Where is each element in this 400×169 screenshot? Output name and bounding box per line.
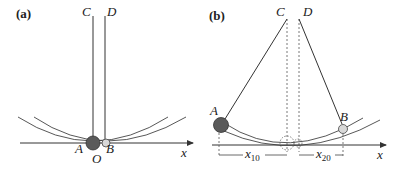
point-o-label: O [92, 151, 102, 166]
arc-b [34, 117, 186, 141]
ball-a-large [86, 136, 100, 150]
ball-b-small-b [339, 125, 348, 134]
dim-label-x20: x20 [315, 146, 331, 163]
point-b-label: B [106, 141, 114, 156]
string-c-b [225, 19, 287, 119]
x-axis-a-label: x [180, 145, 187, 160]
point-c-label: C [82, 4, 91, 19]
point-b-label-b: B [340, 109, 348, 124]
panel-a-label: (a) [16, 6, 31, 21]
string-d-b [299, 19, 342, 124]
ball-a-large-b [214, 118, 229, 133]
x-axis-b-label: x [376, 147, 383, 162]
point-a-label: A [74, 141, 83, 156]
panel-b: (b) C D A B x10 x20 [209, 4, 386, 163]
pendulum-collision-diagram: (a) C D A O B x (b) C D [0, 0, 400, 169]
point-c-label-b: C [276, 4, 285, 19]
point-d-label: D [106, 4, 117, 19]
panel-a: (a) C D A O B x [16, 4, 193, 166]
point-d-label-b: D [302, 4, 313, 19]
dim-label-x10: x10 [244, 146, 260, 163]
point-a-label-b: A [209, 103, 218, 118]
panel-b-label: (b) [209, 8, 225, 23]
